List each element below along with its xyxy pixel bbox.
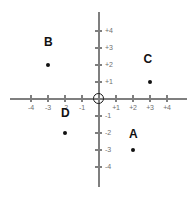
y-axis-tick-label: -4 — [105, 163, 121, 170]
origin-marker-icon — [93, 93, 104, 104]
y-axis-tick — [95, 166, 102, 168]
y-axis-tick — [95, 47, 102, 49]
x-axis-tick-label: +4 — [158, 104, 176, 111]
point-label-a: A — [129, 128, 138, 140]
y-axis-tick — [95, 30, 102, 32]
y-axis-tick — [95, 149, 102, 151]
x-axis-tick-label: -3 — [39, 104, 57, 111]
point-marker-a — [131, 148, 135, 152]
point-marker-b — [46, 63, 50, 67]
point-marker-c — [148, 80, 152, 84]
x-axis-tick — [132, 95, 134, 102]
x-axis-tick-label: -1 — [73, 104, 91, 111]
y-axis-tick-label: -2 — [105, 129, 121, 136]
x-axis-tick — [47, 95, 49, 102]
point-label-d: D — [61, 107, 70, 119]
point-marker-d — [63, 131, 67, 135]
y-axis-tick — [95, 64, 102, 66]
y-axis-tick-label: -3 — [105, 146, 121, 153]
point-label-b: B — [44, 36, 53, 48]
y-axis-tick — [95, 132, 102, 134]
coordinate-plane: -4-3-2-1+1+2+3+4+4+3+2+1-1-2-3-4 ABCD — [0, 0, 196, 197]
x-axis-tick — [166, 95, 168, 102]
point-label-c: C — [143, 53, 152, 65]
x-axis-tick — [149, 95, 151, 102]
x-axis-tick-label: +3 — [141, 104, 159, 111]
y-axis-tick-label: +4 — [105, 27, 121, 34]
y-axis-tick — [95, 115, 102, 117]
x-axis-tick-label: -4 — [22, 104, 40, 111]
y-axis-tick-label: +1 — [105, 78, 121, 85]
x-axis-tick — [30, 95, 32, 102]
y-axis-tick-label: -1 — [105, 112, 121, 119]
x-axis-tick — [81, 95, 83, 102]
y-axis-tick — [95, 81, 102, 83]
y-axis-tick-label: +2 — [105, 61, 121, 68]
x-axis-tick — [64, 95, 66, 102]
x-axis-tick — [115, 95, 117, 102]
y-axis-tick-label: +3 — [105, 44, 121, 51]
x-axis-tick-label: +2 — [124, 104, 142, 111]
x-axis-tick-label: +1 — [107, 104, 125, 111]
